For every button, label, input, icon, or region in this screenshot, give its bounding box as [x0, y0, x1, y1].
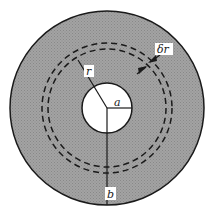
svg-text:b: b: [107, 188, 114, 201]
svg-text:a: a: [114, 96, 121, 109]
label-b: b: [105, 187, 116, 201]
annulus-diagram: r a b δr: [0, 0, 216, 215]
svg-text:r: r: [86, 65, 92, 78]
label-a: a: [114, 96, 121, 109]
label-r: r: [84, 65, 94, 78]
label-delta-r: δr: [155, 43, 173, 56]
svg-text:δr: δr: [157, 43, 170, 56]
